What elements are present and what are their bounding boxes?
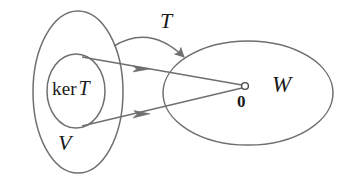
codomain-ellipse-w bbox=[163, 41, 333, 145]
zero-point-marker bbox=[242, 83, 249, 90]
map-arrow-t bbox=[114, 37, 184, 57]
kernel-map-text: T bbox=[77, 77, 90, 99]
kernel-arrow-lower-line bbox=[82, 88, 242, 126]
zero-vector-label: 0 bbox=[237, 93, 246, 110]
kernel-operator-text: ker bbox=[52, 78, 77, 99]
kernel-label: kerT bbox=[52, 78, 90, 98]
codomain-label: W bbox=[272, 73, 291, 96]
map-label: T bbox=[160, 10, 172, 32]
kernel-diagram-figure: kerT V T W 0 bbox=[0, 0, 349, 187]
kernel-arrow-upper-line bbox=[82, 57, 242, 85]
domain-label: V bbox=[58, 132, 71, 154]
